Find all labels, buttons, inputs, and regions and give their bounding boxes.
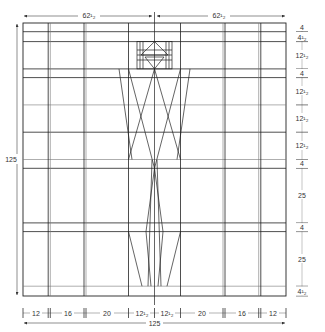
right-dim-label-8: 4 <box>300 160 304 167</box>
bottom-dim-label-2: 16 <box>64 310 72 317</box>
right-dim-label-3: 12¹₂ <box>296 52 309 59</box>
bottom-dim-label-8: 12 <box>269 310 277 317</box>
right-dim-label-11: 25 <box>298 256 306 263</box>
bottom-dim-label-5: 12¹₂ <box>161 310 174 317</box>
right-dim-label-7: 12¹₂ <box>296 142 309 149</box>
top-dim-right-label: 62¹₂ <box>213 12 226 19</box>
right-dim-label-2: 4¹₂ <box>298 34 307 41</box>
bottom-dim-label-1: 12 <box>32 310 40 317</box>
vertical-grid-lines <box>48 12 261 305</box>
right-dim-label-12: 4¹₂ <box>298 288 307 295</box>
bottom-dim-label-4: 12¹₂ <box>136 310 149 317</box>
right-dim-label-4: 4 <box>300 70 304 77</box>
right-dim-label-10: 4 <box>300 224 304 231</box>
grid-diagram: 62¹₂ 62¹₂ 125 <box>0 0 325 332</box>
bottom-total-label: 125 <box>149 320 161 327</box>
bottom-dim-label-6: 20 <box>198 310 206 317</box>
bottom-dimension-row: 12 16 20 12¹₂ 12¹₂ 20 16 12 125 <box>23 308 286 328</box>
right-dim-label-6: 12¹₂ <box>296 115 309 122</box>
top-dim-left-label: 62¹₂ <box>83 12 96 19</box>
right-dim-label-5: 12¹₂ <box>296 88 309 95</box>
right-dim-label-9: 25 <box>298 192 306 199</box>
right-dim-label-1: 4 <box>300 24 304 31</box>
left-dim-label: 125 <box>5 156 17 163</box>
right-dimension-ladder: 4 4¹₂ 12¹₂ 4 12¹₂ 12¹₂ 12¹₂ 4 25 4 25 4¹… <box>294 22 310 296</box>
bottom-dim-label-7: 16 <box>238 310 246 317</box>
bottom-dim-label-3: 20 <box>103 310 111 317</box>
